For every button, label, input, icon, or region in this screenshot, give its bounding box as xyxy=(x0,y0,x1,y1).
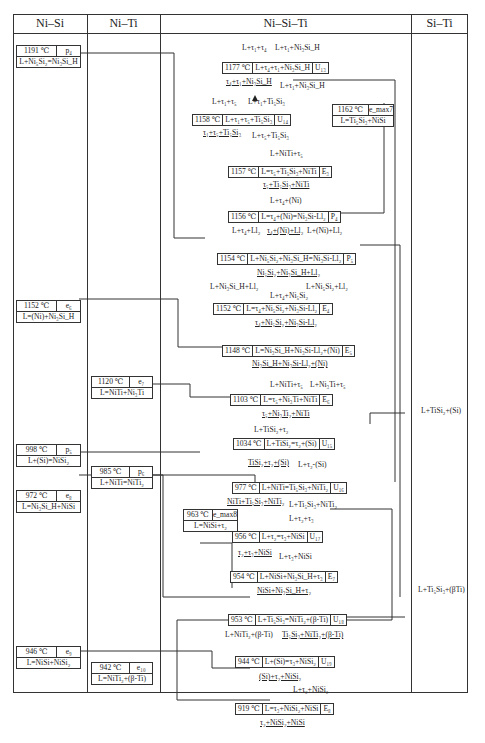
label: L+τ₁+τ₅ xyxy=(212,97,237,106)
nisi-invariant-2: 1152 ℃e₆ L=(Ni)+Ni₃Si_H xyxy=(16,300,81,323)
label: L+(Ni)+Ll₂ xyxy=(307,226,342,235)
ternary-e6: 1103 ℃L=τ₅+Ni₃Ti+NiTiE₆ xyxy=(230,394,333,406)
label: L+τ₁+Ti₅Si₃ xyxy=(248,97,285,106)
ternary-p5: 1154 ℃L+Ni₅Si₂+Ni₃Si_H=Ni₃Si-Ll₂P₅ xyxy=(217,253,356,265)
label: L+NiTi+τ₅ xyxy=(270,149,303,158)
niti-invariant-1: 1120 ℃e₇ L=NiTi+Ni₃Ti xyxy=(91,376,153,399)
siti-label-1: L+TiSi₂+(Si) xyxy=(421,406,461,415)
label: L+τ₂-(Si) xyxy=(298,460,327,469)
label: L+NiTi₂+(β-Ti) xyxy=(225,630,273,639)
label: L+Ni₅Si₂+Ll₂ xyxy=(306,282,348,291)
label: τ₄+(Ni)+Ll₂ xyxy=(267,226,303,235)
ternary-max-963: 963 ℃e_max8 L=NiSi+τ₂ xyxy=(183,509,238,532)
label: L+τ₄+Ll₂ xyxy=(232,226,260,235)
label: L+Ni₃Si_H+Ll₂ xyxy=(210,282,258,291)
label: TiSi₂+τ₂+(Si) xyxy=(248,458,289,467)
ternary-e5: 1148 ℃L=Ni₃Si_H+Ni₃Si-Ll₂+(Ni)E₅ xyxy=(222,345,355,357)
label: (Si)+τ₂+NiSi₂ xyxy=(259,672,301,681)
ternary-e7: 954 ℃L+NiSi+Ni₃Si_H+τ₃E₇ xyxy=(230,571,338,583)
niti-invariant-2: 985 ℃p₆ L+NiTi=NiTi₂ xyxy=(91,466,153,489)
label: τ₅+Ti₅Si₃+NiTi xyxy=(263,180,309,189)
ternary-u18: 953 ℃L+Ti₅Si₃=NiTi₂+(β-Ti)U₁₈ xyxy=(228,614,347,626)
ternary-max-1162: 1162 ℃e_max7 L=Ti₅Si₃+NiSi xyxy=(332,104,394,127)
label: L+τ₁+τ₄ xyxy=(242,43,267,52)
nisi-invariant-3: 998 ℃p₅ L+(Si)=NiSi₂ xyxy=(16,444,81,467)
label: L+Ni₃Ti+τ₅ xyxy=(310,380,346,389)
ternary-e8: 919 ℃L=τ₃+NiSi₂+NiSiE₈ xyxy=(235,703,334,715)
label: τ₁+τ₅+Ti₅Si₃ xyxy=(203,128,241,137)
label: L+Ti₅Si₃+NiTi₂ xyxy=(289,500,337,509)
siti-label-2: L+Ti₅Si₃+(βTi) xyxy=(418,585,465,594)
label: L+τ₂+NiSi₂ xyxy=(293,685,328,694)
label: L+τ₄+(Ni) xyxy=(270,196,302,205)
label: L+NiTi+τ₅ xyxy=(270,380,303,389)
niti-invariant-3: 942 ℃e₁₀ L=NiTi₂+(β-Ti) xyxy=(91,662,153,685)
label: L+τ₁+Ni₃Si_H xyxy=(280,81,325,90)
ternary-u19: 944 ℃L+(Si)=τ₃+NiSi₂U₁₉ xyxy=(235,656,335,668)
nisi-invariant-1: 1191 ℃p₄ L+Ni₅Si₂=Ni₃Si_H xyxy=(16,45,81,68)
ternary-u14: 1158 ℃L+τ₁+τ₅+Ti₅Si₃U₁₄ xyxy=(192,114,291,126)
ternary-e4: 1152 ℃L=τ₄+Ni₅Si₂+Ni₃Si-Ll₂E₄ xyxy=(213,303,333,315)
label: Ni₃Si_H+Ni₃Si-Ll₂+(Ni) xyxy=(252,359,328,368)
ternary-u15: 1034 ℃L+TiSi₂=τ₂+(Si)U₁₅ xyxy=(233,438,335,450)
label: τ₂+NiSi₂+NiSi xyxy=(260,718,305,727)
ternary-u16: 977 ℃L+NiTi=Ti₅Si₃+NiTi₂U₁₆ xyxy=(232,482,347,494)
label: Ni₅Si₂+Ni₃Si_H+Ll₂ xyxy=(257,268,320,277)
label: L+τ₁+Ni₃Si_H xyxy=(275,43,320,52)
ternary-u13: 1177 ℃L+τ₄+τ₁+Ni₃Si_HU₁₃ xyxy=(222,62,329,74)
label: Ti₅Si₃+NiTi₂+(β-Ti) xyxy=(282,630,343,639)
label: τ₂+τ₃+NiSi xyxy=(238,548,272,557)
label: L+TiSi₂+τ₂ xyxy=(254,425,288,434)
label: NiTi+Ti₅Si₃+NiTi₂ xyxy=(227,497,284,506)
nisi-invariant-5: 946 ℃e₉ L=NiSi+NiSi₂ xyxy=(16,646,81,669)
nisi-invariant-4: 972 ℃e₈ L=Ni₃Si_H+NiSi xyxy=(16,490,81,513)
label: NiSi+Ni₃Si_H+τ₂ xyxy=(257,586,311,595)
label: L+τ₃+NiSi xyxy=(279,552,312,561)
label: L+τ₄+Ni₅Si₂ xyxy=(270,291,308,300)
label: L+τ₂+τ₃ xyxy=(289,514,314,523)
label: L+τ₅+Ti₅Si₃ xyxy=(252,131,289,140)
label: τ₄+τ₁+Ni₃Si_H xyxy=(226,77,272,86)
ternary-e3: 1157 ℃L=τ₅+Ti₅Si₃+NiTiE₃ xyxy=(228,166,332,178)
label: τ₅+Ni₃Ti₂+NiTi xyxy=(262,409,310,418)
ternary-p4: 1156 ℃L=τ₄+(Ni)=Ni₃Si-Ll₂P₄ xyxy=(228,211,341,223)
ternary-u17: 956 ℃L+τ₂=τ₃+NiSiU₁₇ xyxy=(232,531,323,543)
label: τ₄+Ni₅Si₂+Ni₃Si-Ll₂ xyxy=(255,318,317,327)
